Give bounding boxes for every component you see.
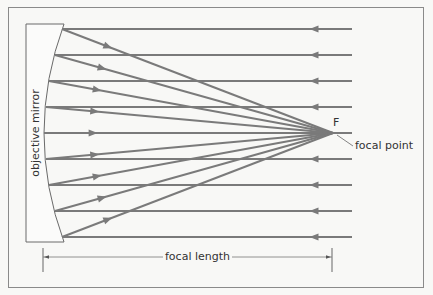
focal-point-label: focal point	[355, 139, 413, 152]
objective-mirror-label: objective mirror	[29, 89, 42, 176]
focal-point-marker-label: F	[333, 116, 339, 129]
diagram-canvas: objective mirror F focal point focal len…	[0, 0, 433, 295]
focal-length-label: focal length	[163, 250, 232, 263]
